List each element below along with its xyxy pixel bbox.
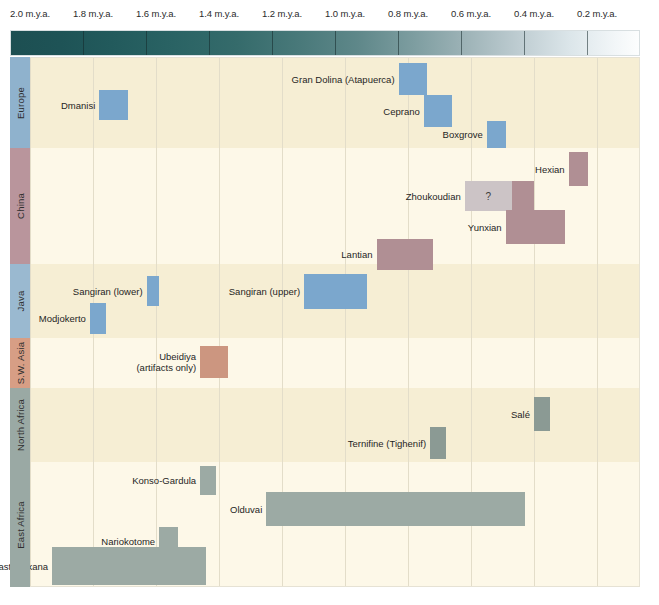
site-bar-hexian[interactable] [569,152,588,186]
ramp-divider-2 [146,30,147,56]
time-gradient-ramp [10,30,640,56]
site-bar-sangiran-upper[interactable] [304,274,367,309]
site-label-hexian: Hexian [265,164,565,175]
axis-tick-0: 2.0 m.y.a. [10,8,50,19]
site-label-olduvai: Olduvai [0,504,262,515]
site-sublabel-ubeidiya: (artifacts only) [136,362,196,373]
region-tab-label: China [15,193,26,219]
region-tab-label: Europe [15,87,26,119]
axis-tick-6: 0.8 m.y.a. [388,8,428,19]
region-tab-label: Java [15,291,26,312]
chronology-chart: 2.0 m.y.a.1.8 m.y.a.1.6 m.y.a.1.4 m.y.a.… [0,0,659,605]
region-tab-label: S.W. Asia [15,342,26,384]
axis-tick-3: 1.4 m.y.a. [199,8,239,19]
ramp-divider-7 [461,30,462,56]
ramp-divider-5 [335,30,336,56]
uncertainty-question-mark: ? [465,181,512,211]
site-bar-zhoukoudian-uncertain: ? [465,181,512,211]
ramp-divider-1 [83,30,84,56]
region-tab-east-africa[interactable]: East Africa [10,462,30,587]
site-bar-ternifine-tighenif[interactable] [430,427,446,459]
site-bar-boxgrove[interactable] [487,121,506,148]
site-label-sal: Salé [230,409,530,420]
site-label-yunxian: Yunxian [202,222,502,233]
site-bar-yunxian[interactable] [506,210,566,244]
site-bar-east-turkana[interactable] [52,547,206,585]
ramp-divider-8 [524,30,525,56]
axis-tick-9: 0.2 m.y.a. [577,8,617,19]
site-bar-ubeidiya[interactable] [200,346,228,378]
axis-tick-5: 1.0 m.y.a. [325,8,365,19]
site-bar-olduvai[interactable] [266,492,524,526]
plot-area: Gran Dolina (Atapuerca)CepranoBoxgroveDm… [10,57,640,587]
site-bar-modjokerto[interactable] [90,303,106,334]
site-bar-lantian[interactable] [377,239,434,270]
site-bar-zhoukoudian[interactable]: ? [465,181,534,211]
ramp-divider-6 [398,30,399,56]
axis-tick-1: 1.8 m.y.a. [73,8,113,19]
region-tab-java[interactable]: Java [10,264,30,338]
ramp-divider-3 [209,30,210,56]
site-bar-dmanisi[interactable] [99,90,127,120]
ramp-divider-9 [587,30,588,56]
region-tab-north-africa[interactable]: North Africa [10,388,30,462]
region-tab-europe[interactable]: Europe [10,57,30,148]
ramp-divider-4 [272,30,273,56]
region-tab-label: North Africa [15,399,26,451]
axis-tick-7: 0.6 m.y.a. [451,8,491,19]
site-label-ternifine-tighenif: Ternifine (Tighenif) [126,438,426,449]
site-bar-sal[interactable] [534,397,550,431]
site-label-boxgrove: Boxgrove [183,129,483,140]
site-bar-ceprano[interactable] [424,95,452,127]
region-tab-china[interactable]: China [10,148,30,264]
site-label-sangiran-upper: Sangiran (upper) [0,286,300,297]
gridline-9 [597,57,598,587]
site-bar-konso-gardula[interactable] [200,466,216,495]
site-label-lantian: Lantian [73,249,373,260]
axis-tick-4: 1.2 m.y.a. [262,8,302,19]
region-tab-label: East Africa [15,501,26,549]
region-tab-s-w-asia[interactable]: S.W. Asia [10,338,30,388]
site-bar-gran-dolina-atapuerca[interactable] [399,63,427,95]
site-label-ceprano: Ceprano [120,106,420,117]
site-label-zhoukoudian: Zhoukoudian [161,191,461,202]
site-label-gran-dolina-atapuerca: Gran Dolina (Atapuerca) [95,74,395,85]
gridline-8 [534,57,535,587]
axis-tick-8: 0.4 m.y.a. [514,8,554,19]
axis-tick-2: 1.6 m.y.a. [136,8,176,19]
